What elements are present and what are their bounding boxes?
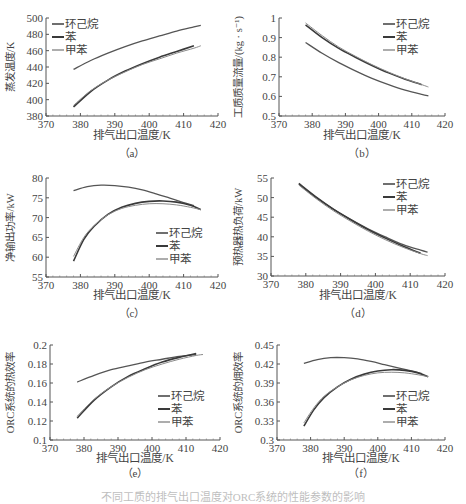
series-group: [306, 23, 429, 96]
x-tick-label: 420: [437, 442, 454, 454]
y-tick-label: 35: [257, 250, 269, 262]
y-axis-label: 蒸发温度/K: [4, 41, 16, 92]
legend: 环己烷苯甲苯: [52, 17, 99, 56]
chart-e: 3703803904004104200.10.120.140.160.180.2…: [0, 320, 233, 480]
series-group: [299, 183, 428, 255]
legend: 环己烷苯甲苯: [383, 389, 430, 428]
y-tick-label: 0.9: [262, 32, 276, 44]
legend-label: 甲苯: [396, 203, 419, 216]
chart-b: 3703803904004104200.50.60.70.80.91排气出口温度…: [233, 0, 466, 165]
panel-label: （b）: [348, 147, 376, 159]
figure-caption: 不同工质的排气出口温度对ORC系统的性能参数的影响: [0, 488, 466, 504]
x-tick-label: 420: [437, 278, 454, 290]
y-tick-label: 420: [27, 77, 44, 89]
x-tick-label: 410: [175, 118, 192, 130]
y-tick-label: 480: [27, 28, 44, 40]
chart-panel-a: 370380390400410420380400420440460480500排…: [0, 0, 233, 160]
series-line-1: [74, 25, 201, 69]
legend-label: 环己烷: [396, 177, 430, 190]
y-tick-label: 0.2: [33, 339, 47, 351]
y-axis-label: ORC系统的热效率: [4, 352, 16, 434]
legend-label: 苯: [396, 190, 408, 203]
legend-label: 甲苯: [396, 43, 419, 56]
y-tick-label: 440: [27, 61, 44, 73]
chart-c: 370380390400410420556065707580排气出口温度/K净输…: [0, 160, 233, 320]
series-line-2: [74, 46, 194, 107]
y-tick-label: 50: [257, 192, 269, 204]
y-tick-label: 0.39: [255, 377, 275, 389]
series-line-1: [299, 184, 428, 252]
series-line-1: [77, 355, 196, 383]
chart-panel-c: 370380390400410420556065707580排气出口温度/K净输…: [0, 160, 233, 320]
y-tick-label: 460: [27, 45, 44, 57]
x-axis-label: 排气出口温度/K: [323, 128, 401, 141]
series-group: [77, 354, 203, 419]
y-tick-label: 0.7: [262, 71, 276, 83]
series-group: [74, 25, 201, 107]
x-tick-label: 380: [302, 442, 319, 454]
y-tick-label: 55: [32, 271, 44, 283]
legend-label: 环己烷: [169, 226, 203, 239]
y-tick-label: 80: [32, 172, 44, 184]
y-tick-label: 500: [27, 12, 44, 24]
chart-d: 370380390400410420303540455055排气出口温度/K预热…: [233, 160, 466, 320]
panel-label: （a）: [119, 147, 146, 159]
legend-label: 苯: [396, 402, 408, 415]
series-line-3: [74, 46, 201, 106]
y-tick-label: 0.18: [28, 358, 48, 370]
x-axis-label: 排气出口温度/K: [322, 451, 400, 464]
x-axis-label: 排气出口温度/K: [96, 451, 174, 464]
y-axis-label: 工质质量流量/(kg · s⁻¹): [232, 16, 245, 118]
legend-label: 苯: [396, 30, 408, 43]
legend: 环己烷苯甲苯: [383, 17, 430, 56]
panel-label: （f）: [348, 467, 374, 479]
series-line-3: [299, 185, 428, 256]
series-line-1: [304, 357, 422, 373]
legend-label: 环己烷: [396, 389, 430, 402]
y-tick-label: 0.6: [262, 90, 276, 102]
y-tick-label: 0.36: [255, 396, 275, 408]
series-group: [74, 185, 201, 261]
y-tick-label: 0.3: [260, 434, 274, 446]
y-tick-label: 380: [27, 110, 44, 122]
legend-label: 环己烷: [396, 17, 430, 30]
y-axis-label: 预热器热负荷/kW: [232, 188, 244, 266]
legend-label: 甲苯: [65, 43, 88, 56]
x-tick-label: 380: [304, 118, 321, 130]
x-tick-label: 420: [437, 118, 454, 130]
chart-f: 3703803904004104200.30.330.360.390.420.4…: [233, 320, 466, 480]
panel-label: （c）: [119, 307, 146, 319]
x-axis-label: 排气出口温度/K: [93, 128, 171, 141]
chart-panel-e: 3703803904004104200.10.120.140.160.180.2…: [0, 320, 233, 480]
legend: 环己烷苯甲苯: [156, 226, 203, 265]
panel-label: （d）: [344, 307, 372, 319]
y-tick-label: 45: [257, 211, 269, 223]
y-axis-label: 净输出功率/kW: [4, 193, 16, 261]
legend-label: 苯: [171, 402, 183, 415]
x-tick-label: 420: [210, 279, 227, 291]
x-tick-label: 410: [175, 279, 192, 291]
legend: 环己烷苯甲苯: [383, 177, 430, 216]
x-tick-label: 380: [298, 278, 315, 290]
y-tick-label: 0.8: [262, 51, 276, 63]
x-tick-label: 380: [72, 118, 89, 130]
x-tick-label: 380: [72, 279, 89, 291]
y-tick-label: 0.33: [255, 415, 275, 427]
y-tick-label: 0.42: [255, 358, 274, 370]
legend-label: 甲苯: [396, 415, 419, 428]
y-tick-label: 30: [257, 270, 269, 282]
y-tick-label: 0.1: [33, 434, 47, 446]
y-axis-label: ORC系统的㶲效率: [232, 352, 244, 434]
chart-panel-d: 370380390400410420303540455055排气出口温度/K预热…: [233, 160, 466, 320]
legend-label: 甲苯: [171, 415, 194, 428]
y-tick-label: 0.45: [255, 339, 275, 351]
x-tick-label: 420: [210, 118, 227, 130]
y-tick-label: 0.16: [28, 377, 48, 389]
y-tick-label: 400: [27, 94, 44, 106]
y-tick-label: 0.5: [262, 110, 276, 122]
legend-label: 甲苯: [169, 252, 192, 265]
y-tick-label: 0.14: [28, 396, 48, 408]
panel-label: （e）: [122, 467, 149, 479]
x-tick-label: 380: [76, 442, 93, 454]
y-tick-label: 60: [32, 251, 44, 263]
